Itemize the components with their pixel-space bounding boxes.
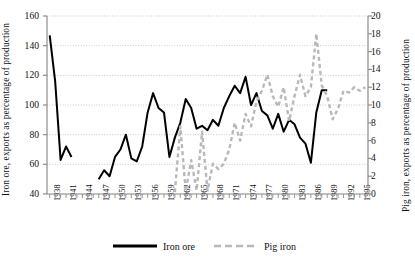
- series-line-iron-ore: [50, 35, 72, 160]
- legend-swatch-solid: [112, 241, 158, 251]
- legend-label-iron-ore: Iron ore: [163, 241, 195, 252]
- legend-item-pig-iron: Pig iron: [213, 241, 296, 252]
- legend-swatch-dashed: [213, 241, 259, 251]
- series-line-pig-iron: [175, 34, 365, 192]
- chart-legend: Iron ore Pig iron: [112, 237, 342, 255]
- legend-item-iron-ore: Iron ore: [112, 241, 195, 252]
- chart-figure: Iron ore, exports as percentage of produ…: [0, 0, 415, 261]
- plot-area: [0, 0, 415, 261]
- legend-label-pig-iron: Pig iron: [264, 241, 296, 252]
